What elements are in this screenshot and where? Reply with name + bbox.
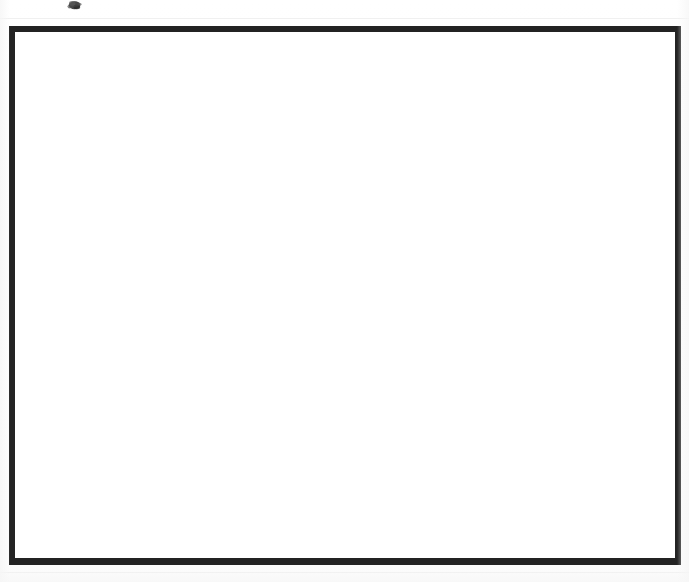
scanned-page xyxy=(0,0,689,582)
grid-border-frame xyxy=(9,26,681,565)
